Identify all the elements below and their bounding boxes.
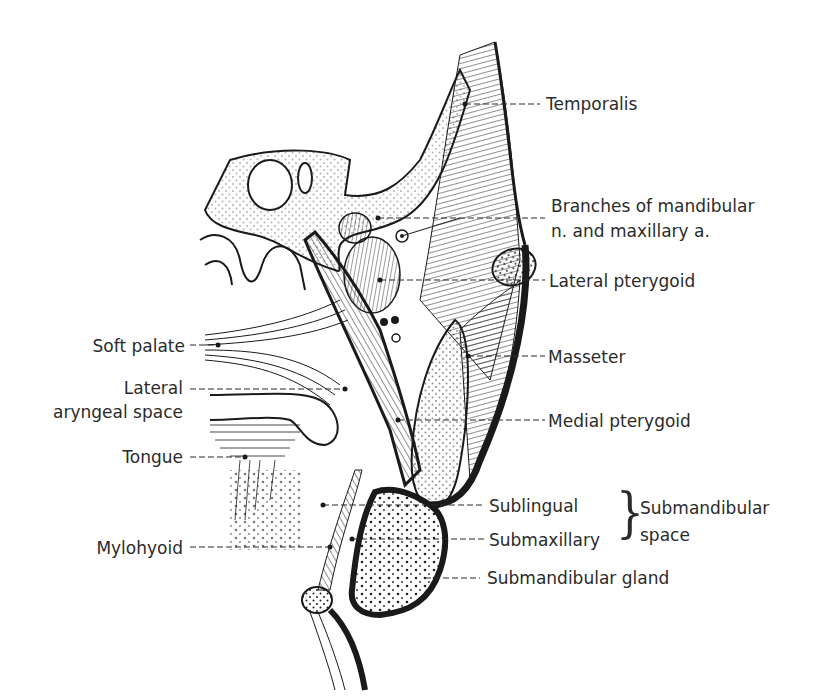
label-masseter: Masseter (548, 347, 625, 367)
label-lateral-pterygoid: Lateral pterygoid (549, 271, 695, 291)
tongue (210, 394, 338, 445)
submandibular-gland (352, 490, 445, 615)
label-submaxillary: Submaxillary (489, 530, 600, 550)
label-tongue: Tongue (122, 447, 183, 467)
label-lateral-line2: aryngeal space (53, 402, 183, 422)
label-submandibular-gland: Submandibular gland (487, 568, 669, 588)
label-medial-pterygoid: Medial pterygoid (548, 411, 691, 431)
label-submandibular-space-line2: space (640, 525, 690, 545)
label-submandibular-space-line1: Submandibular (640, 498, 769, 518)
label-sublingual: Sublingual (489, 496, 578, 516)
label-lateral-line1: Lateral (124, 378, 183, 398)
label-temporalis: Temporalis (546, 94, 637, 114)
label-soft-palate: Soft palate (93, 336, 185, 356)
label-branches-line2: n. and maxillary a. (551, 221, 710, 241)
label-mylohyoid: Mylohyoid (96, 538, 183, 558)
mandible (412, 320, 468, 506)
label-branches-line1: Branches of mandibular (551, 196, 754, 216)
